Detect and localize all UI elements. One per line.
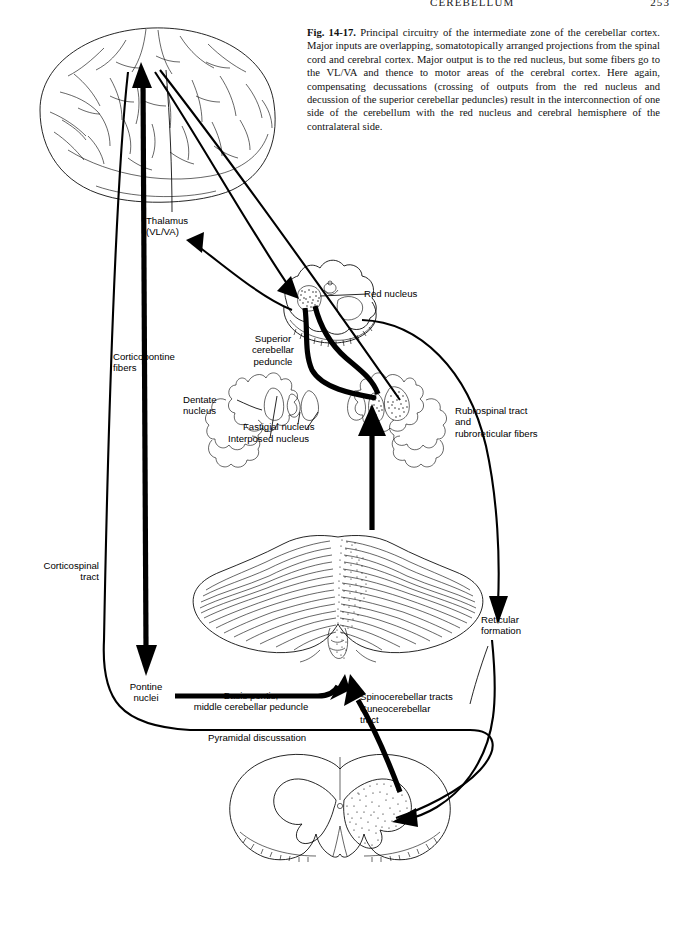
cerebellum-dorsal-view bbox=[193, 535, 483, 662]
label-pontine-nuclei: Pontine nuclei bbox=[120, 681, 172, 704]
label-pyramidal-decussation: Pyramidal discussation bbox=[208, 732, 306, 743]
label-dentate-nucleus: Dentate nucleus bbox=[183, 394, 217, 417]
pathway-scp-to-thalamus bbox=[186, 232, 292, 310]
pathway-corticopontine-fibers bbox=[104, 72, 470, 730]
label-basis-pontis: Basis pontis, middle cerebellar peduncle bbox=[171, 690, 331, 713]
leader-red-nucleus bbox=[320, 294, 368, 296]
label-rubrospinal-tract: Rubrospinal tract and rubroreticular fib… bbox=[455, 405, 538, 439]
figure-page: CEREBELLUM 253 Fig. 14-17. Principal cir… bbox=[0, 0, 680, 927]
label-reticular-formation: Reticular formation bbox=[481, 614, 521, 637]
dentate-nucleus-right-stipple bbox=[384, 387, 409, 421]
label-superior-cerebellar-peduncle: Superior cerebellar peduncle bbox=[237, 333, 309, 367]
pathway-midbrain-to-cortex bbox=[155, 72, 299, 299]
pathway-cerebellum-to-nuclei bbox=[358, 404, 386, 530]
pathway-pyramidal-decussation bbox=[396, 730, 493, 818]
cerebellar-deep-nuclei-section bbox=[205, 373, 446, 467]
label-red-nucleus: Red nucleus bbox=[364, 288, 417, 299]
leader-dentate-nucleus bbox=[237, 400, 262, 410]
label-corticopontine-fibers: Corticopontine fibers bbox=[113, 351, 175, 374]
label-cuneocerebellar-tract: Cuneocerebellar tract bbox=[360, 703, 430, 726]
label-spinocerebellar-tracts: Spinocerebellar tracts bbox=[360, 691, 453, 702]
spinal-cord-cross-section bbox=[230, 754, 451, 862]
circuit-diagram bbox=[0, 0, 680, 927]
label-interposed-nucleus: Interposed nucleus bbox=[228, 433, 309, 444]
leader-reticular-formation bbox=[470, 646, 488, 704]
label-corticospinal-tract: Corticospinal tract bbox=[20, 560, 99, 583]
label-thalamus: Thalamus (VL/VA) bbox=[146, 215, 188, 238]
label-fastigial-nucleus: Fastigial nucleus bbox=[243, 421, 314, 432]
